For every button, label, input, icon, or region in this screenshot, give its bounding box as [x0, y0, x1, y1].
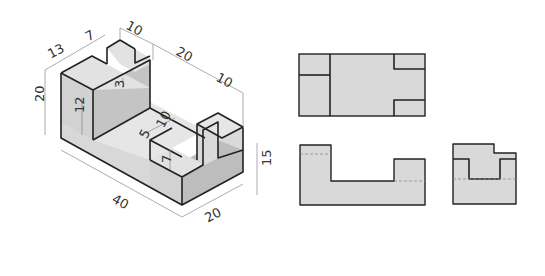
- dim-3: 3: [112, 80, 127, 88]
- dim-40: 40: [110, 191, 132, 212]
- isometric-view: 13 7 10 20 10 20 12 3 5 10 7 15 40 20: [32, 18, 274, 226]
- front-view: [300, 145, 425, 205]
- dim-12: 12: [72, 96, 87, 113]
- dim-20-left: 20: [32, 85, 47, 102]
- dim-7: 7: [83, 27, 97, 44]
- dim-15: 15: [259, 149, 274, 166]
- top-view: [299, 54, 425, 116]
- dim-7-low: 7: [159, 155, 174, 163]
- drawing-canvas: 13 7 10 20 10 20 12 3 5 10 7 15 40 20: [0, 0, 545, 276]
- dim-10-top: 10: [124, 18, 146, 39]
- dim-20-top: 20: [174, 44, 196, 65]
- side-view: [453, 144, 516, 204]
- dim-13: 13: [45, 40, 67, 61]
- dim-10-right: 10: [214, 70, 236, 91]
- dim-20-bottom: 20: [202, 204, 224, 225]
